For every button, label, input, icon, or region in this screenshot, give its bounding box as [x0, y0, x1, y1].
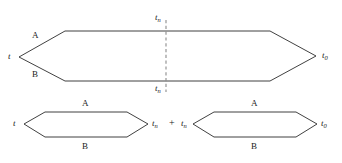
diagram-svg [0, 0, 342, 163]
first-right-subscript: n [155, 122, 158, 129]
second-hexagon-right-endpoint-label: t0 [321, 119, 327, 128]
combined-hexagon-right-endpoint-label: t0 [322, 51, 328, 60]
second-hexagon-lower-path-label: B [251, 142, 257, 151]
combined-hexagon-left-endpoint-label: t [8, 52, 11, 61]
combined-hexagon-outline [19, 31, 316, 81]
second-hexagon-outline [193, 112, 317, 137]
first-hexagon-right-endpoint-label: tn [152, 119, 158, 128]
plus-operator: + [169, 118, 175, 128]
first-hexagon-left-endpoint-label: t [13, 119, 16, 128]
combined-hexagon-lower-path-label: B [32, 70, 38, 79]
first-hexagon-upper-path-label: A [82, 99, 89, 108]
first-hexagon-lower-path-label: B [82, 142, 88, 151]
second-right-subscript: 0 [324, 122, 327, 129]
split-top-label: tn [155, 13, 161, 22]
first-hexagon-outline [24, 112, 148, 137]
second-left-subscript: n [184, 122, 187, 129]
split-bottom-label: tn [155, 84, 161, 93]
split-bottom-subscript: n [158, 87, 161, 94]
combined-hexagon-upper-path-label: A [32, 31, 39, 40]
combined-right-subscript: 0 [325, 54, 328, 61]
second-hexagon-upper-path-label: A [251, 99, 258, 108]
split-top-subscript: n [158, 16, 161, 23]
diagram-canvas: t t0 A B tn tn t tn A B + tn t0 A B [0, 0, 342, 163]
second-hexagon-left-endpoint-label: tn [181, 119, 187, 128]
